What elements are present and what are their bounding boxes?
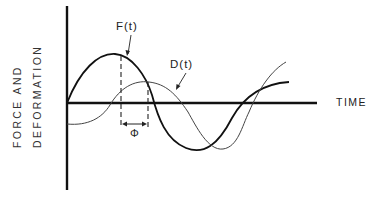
y-axis-label-line2: DEFORMATION [31, 45, 43, 148]
time-axis-label: TIME [336, 96, 367, 108]
y-axis-label-line1: FORCE AND [11, 65, 23, 148]
force-deformation-diagram [0, 0, 374, 199]
phase-label: Φ [130, 127, 139, 139]
deformation-curve-label: D(t) [170, 58, 193, 70]
deformation-leader-arrow-icon [176, 84, 181, 90]
force-leader-arrow-icon [126, 50, 131, 56]
phase-arrow-right-head-icon [142, 122, 147, 127]
force-curve-label: F(t) [116, 20, 138, 32]
deformation-curve [67, 62, 286, 149]
phase-arrow-left-head-icon [122, 122, 127, 127]
